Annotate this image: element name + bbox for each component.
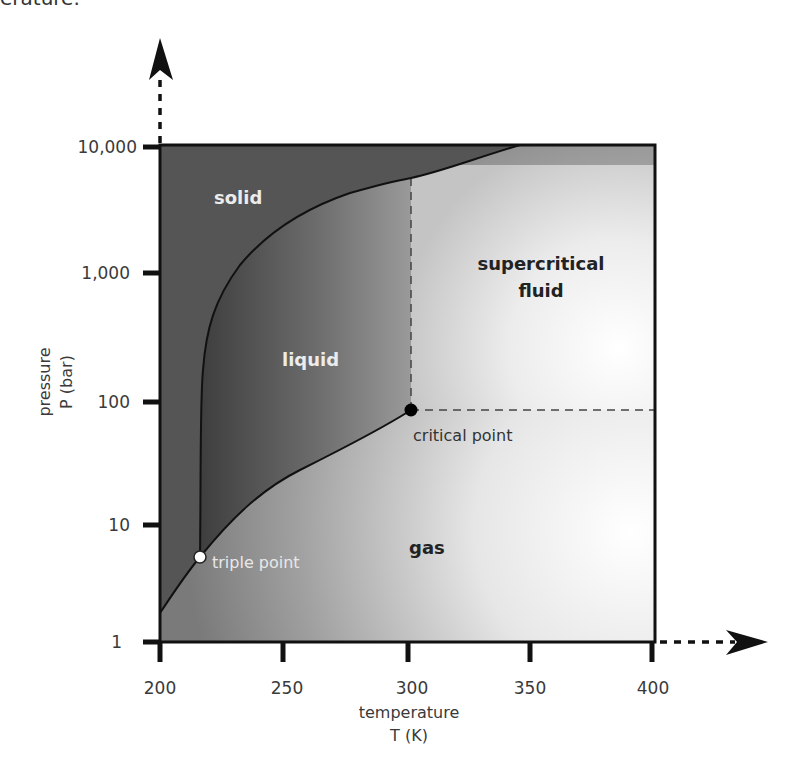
gas-label: gas bbox=[409, 537, 445, 558]
triple-point-marker bbox=[194, 551, 206, 563]
liquid-label: liquid bbox=[282, 349, 339, 370]
y-tick-10000: 10,000 bbox=[78, 137, 137, 157]
x-tick-300: 300 bbox=[396, 678, 428, 698]
y-axis-unit: P (bar) bbox=[57, 355, 76, 409]
x-tick-250: 250 bbox=[271, 678, 303, 698]
y-tick-10: 10 bbox=[108, 515, 130, 535]
y-axis-title: pressure bbox=[35, 347, 54, 416]
x-tick-200: 200 bbox=[144, 678, 176, 698]
y-axis-arrowhead-icon bbox=[149, 38, 173, 80]
x-axis-ticks bbox=[160, 642, 652, 662]
x-tick-400: 400 bbox=[637, 678, 669, 698]
y-tick-1000: 1,000 bbox=[81, 263, 130, 283]
x-axis-title: temperature bbox=[359, 703, 460, 722]
x-axis-unit: T (K) bbox=[389, 726, 428, 745]
supercritical-label-line1: supercritical bbox=[478, 253, 605, 274]
critical-point-marker bbox=[405, 404, 418, 417]
supercritical-label-line2: fluid bbox=[518, 280, 563, 301]
y-tick-1: 1 bbox=[111, 632, 122, 652]
solid-label: solid bbox=[214, 187, 262, 208]
y-axis-ticks bbox=[143, 147, 160, 642]
x-tick-350: 350 bbox=[514, 678, 546, 698]
triple-point-label: triple point bbox=[212, 553, 300, 572]
y-tick-100: 100 bbox=[98, 392, 130, 412]
critical-point-label: critical point bbox=[413, 426, 512, 445]
phase-diagram: 10,000 1,000 100 10 1 200 250 300 350 40… bbox=[0, 0, 803, 778]
